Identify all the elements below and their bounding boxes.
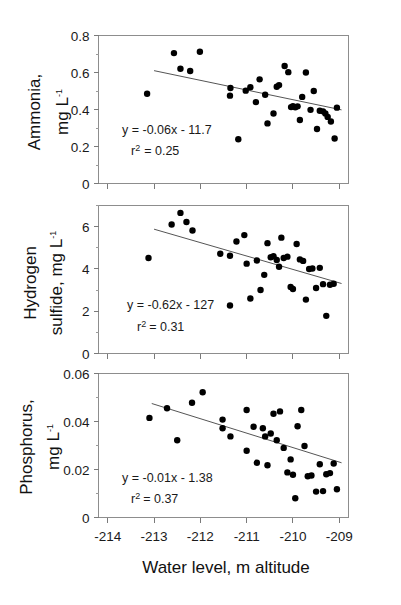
data-point — [260, 425, 266, 431]
data-point — [330, 460, 336, 466]
data-point — [270, 110, 276, 116]
x-tick-label: -209 — [326, 529, 353, 544]
data-point — [327, 470, 333, 476]
data-point — [189, 400, 195, 406]
panel-phosphorus-ylabel-line1: Phosphorus, — [17, 399, 36, 494]
data-point — [262, 433, 268, 439]
data-point — [233, 238, 239, 244]
data-point — [227, 253, 233, 259]
data-point — [254, 460, 260, 466]
data-point — [298, 407, 304, 413]
data-point — [334, 486, 340, 492]
data-point — [290, 472, 296, 478]
panel-ammonia: 00.20.40.60.8 y = -0.06x - 11.7 r2= 0.25… — [25, 29, 349, 192]
y-tick-label: 0.06 — [63, 367, 89, 382]
data-point — [307, 107, 313, 113]
data-point — [292, 495, 298, 501]
panel-hydrogen-sulfide-y-ticks — [94, 206, 99, 354]
data-point — [274, 257, 280, 263]
data-point — [303, 69, 309, 75]
data-point — [281, 63, 287, 69]
panel-hydrogen-sulfide-regression-line — [154, 229, 341, 283]
data-point — [254, 257, 260, 263]
data-point — [227, 302, 233, 308]
data-point — [297, 117, 303, 123]
y-tick-label: 0.02 — [63, 463, 89, 478]
panel-ammonia-x-ticks — [108, 184, 339, 189]
data-point — [264, 120, 270, 126]
data-point — [331, 135, 337, 141]
panel-phosphorus-y-ticklabels: 00.020.040.06 — [63, 367, 90, 526]
panel-phosphorus-y-ticks — [94, 374, 99, 518]
data-point — [247, 295, 253, 301]
panel-ammonia-ylabel-line2: mg L-1 — [53, 89, 72, 135]
data-point — [174, 437, 180, 443]
data-point — [197, 49, 203, 55]
data-point — [314, 126, 320, 132]
data-point — [323, 313, 329, 319]
data-point — [330, 281, 336, 287]
data-point — [243, 407, 249, 413]
panel-phosphorus-x-ticklabels: -214-213-212-211-210-209 — [94, 529, 353, 544]
data-point — [285, 69, 291, 75]
panel-phosphorus-r2: r2= 0.37 — [131, 491, 178, 506]
data-point — [144, 91, 150, 97]
data-point — [187, 68, 193, 74]
data-point — [301, 443, 307, 449]
panel-phosphorus-x-ticks — [108, 518, 339, 523]
data-point — [303, 296, 309, 302]
data-point — [146, 415, 152, 421]
y-tick-label: 2 — [82, 304, 90, 319]
data-point — [311, 88, 317, 94]
panel-phosphorus-y-axis-title: Phosphorus, mg L-1 — [17, 399, 63, 494]
x-tick-label: -214 — [94, 529, 122, 544]
data-point — [309, 265, 315, 271]
data-point — [290, 286, 296, 292]
data-point — [253, 99, 259, 105]
x-tick-label: -210 — [279, 529, 306, 544]
panel-hydrogen-sulfide-y-ticklabels: 0246 — [82, 220, 90, 362]
panel-ammonia-y-axis-title: Ammonia, mg L-1 — [25, 74, 72, 151]
panel-hydrogen-sulfide-equation: y = -0.62x - 127 — [127, 298, 214, 312]
panel-phosphorus: 00.020.040.06 -214-213-212-211-210-209 y… — [17, 367, 353, 544]
y-tick-label: 0.04 — [63, 415, 90, 430]
data-point — [243, 260, 249, 266]
data-point — [219, 425, 225, 431]
panel-ammonia-ylabel-line1: Ammonia, — [25, 74, 44, 151]
data-point — [256, 76, 262, 82]
data-point — [183, 219, 189, 225]
data-point — [264, 240, 270, 246]
data-point — [287, 456, 293, 462]
panel-ammonia-y-ticklabels: 00.20.40.60.8 — [71, 29, 90, 192]
data-point — [320, 281, 326, 287]
y-tick-label: 0.2 — [71, 140, 90, 155]
data-point — [278, 234, 284, 240]
data-point — [293, 241, 299, 247]
data-point — [294, 423, 300, 429]
data-point — [308, 472, 314, 478]
data-point — [280, 445, 286, 451]
data-point — [328, 118, 334, 124]
data-point — [168, 221, 174, 227]
data-point — [317, 265, 323, 271]
x-axis-title: Water level, m altitude — [142, 558, 310, 577]
data-point — [284, 469, 290, 475]
data-point — [257, 287, 263, 293]
data-point — [274, 437, 280, 443]
data-point — [199, 389, 205, 395]
data-point — [250, 424, 256, 430]
y-tick-label: 6 — [82, 220, 90, 235]
data-point — [261, 272, 267, 278]
data-point — [171, 50, 177, 56]
y-tick-label: 0 — [82, 177, 90, 192]
data-point — [262, 92, 268, 98]
data-point — [164, 405, 170, 411]
data-point — [145, 255, 151, 261]
data-point — [189, 227, 195, 233]
data-point — [177, 66, 183, 72]
data-point — [313, 488, 319, 494]
panel-hydrogen-sulfide-y-axis-title: Hydrogen sulfide, mg L-1 — [21, 231, 66, 335]
data-point — [264, 462, 270, 468]
data-point — [177, 210, 183, 216]
data-point — [317, 461, 323, 467]
